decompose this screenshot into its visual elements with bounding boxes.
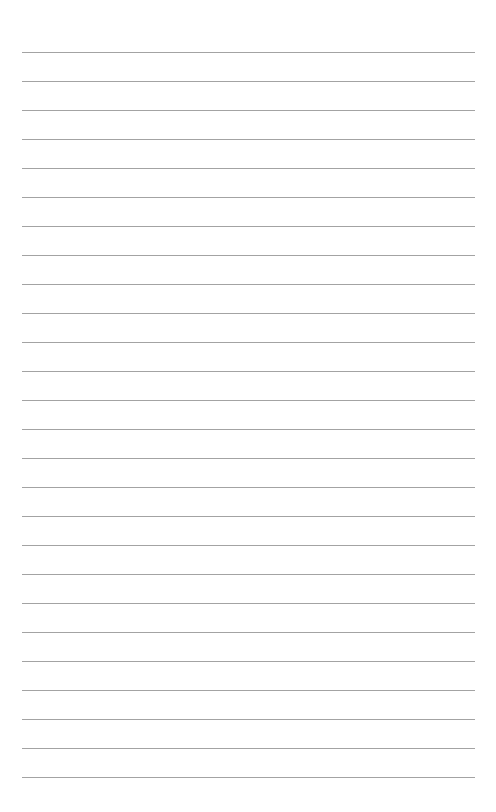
ruled-line — [22, 516, 475, 517]
ruled-line — [22, 545, 475, 546]
ruled-line — [22, 313, 475, 314]
ruled-line — [22, 748, 475, 749]
ruled-line — [22, 661, 475, 662]
ruled-line — [22, 284, 475, 285]
ruled-line — [22, 342, 475, 343]
ruled-line — [22, 255, 475, 256]
ruled-line — [22, 690, 475, 691]
ruled-line — [22, 777, 475, 778]
ruled-line — [22, 458, 475, 459]
lined-paper-sheet — [0, 0, 496, 812]
ruled-line — [22, 197, 475, 198]
ruled-line — [22, 487, 475, 488]
ruled-line — [22, 371, 475, 372]
ruled-line — [22, 574, 475, 575]
ruled-line — [22, 139, 475, 140]
ruled-line — [22, 81, 475, 82]
ruled-line — [22, 603, 475, 604]
ruled-line — [22, 719, 475, 720]
ruled-line — [22, 52, 475, 53]
ruled-line — [22, 429, 475, 430]
ruled-line — [22, 632, 475, 633]
ruled-line — [22, 226, 475, 227]
ruled-line — [22, 110, 475, 111]
ruled-line — [22, 400, 475, 401]
ruled-line — [22, 168, 475, 169]
